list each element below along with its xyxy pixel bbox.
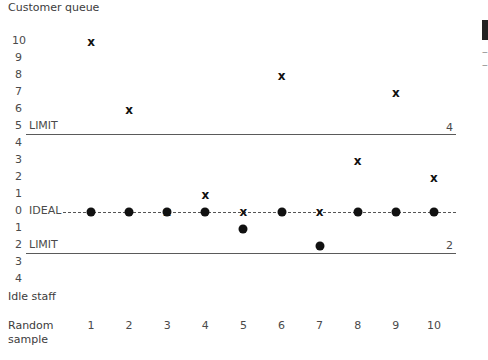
upper-axis-tick: 3 — [15, 154, 22, 166]
queue-marker-x-icon: x — [87, 36, 95, 48]
upper-axis-tick: 5 — [15, 120, 22, 132]
lower-limit-label: LIMIT — [29, 239, 58, 251]
idle-staff-dot — [353, 208, 362, 217]
upper-axis-tick: 1 — [15, 188, 22, 200]
idle-staff-dot — [239, 225, 248, 234]
cropped-edge-element — [482, 20, 488, 40]
x-axis-tick: 5 — [240, 319, 247, 332]
upper-limit-count: 4 — [446, 122, 453, 134]
queue-marker-x-icon: x — [278, 70, 286, 82]
queue-marker-x-icon: x — [201, 189, 209, 201]
upper-axis-tick: 10 — [12, 35, 26, 47]
upper-limit-label: LIMIT — [29, 120, 58, 132]
upper-axis-tick: 0 — [15, 205, 22, 217]
lower-axis-tick: 1 — [15, 222, 22, 234]
lower-limit-count: 2 — [446, 240, 453, 252]
x-axis-tick: 4 — [202, 319, 209, 332]
x-axis-tick: 6 — [278, 319, 285, 332]
upper-axis-title: Customer queue — [8, 1, 99, 14]
lower-axis-tick: 3 — [15, 256, 22, 268]
idle-staff-dot — [315, 242, 324, 251]
upper-axis-tick: 2 — [15, 171, 22, 183]
idle-staff-dot — [391, 208, 400, 217]
lower-limit-line — [26, 253, 456, 254]
idle-staff-dot — [201, 208, 210, 217]
x-axis-tick: 3 — [164, 319, 171, 332]
upper-limit-line — [26, 134, 456, 135]
x-axis-tick: 10 — [427, 319, 441, 332]
x-axis-tick: 8 — [354, 319, 361, 332]
queue-marker-x-icon: x — [392, 87, 400, 99]
idle-staff-dot — [163, 208, 172, 217]
x-axis-tick: 7 — [316, 319, 323, 332]
queue-marker-x-icon: x — [354, 155, 362, 167]
queue-marker-x-icon: x — [316, 206, 324, 218]
cropped-edge-text: ‒ — [482, 60, 488, 70]
upper-axis-tick: 9 — [15, 52, 22, 64]
upper-axis-tick: 7 — [15, 86, 22, 98]
x-axis-tick: 1 — [88, 319, 95, 332]
upper-axis-tick: 6 — [15, 103, 22, 115]
queue-marker-x-icon: x — [240, 206, 248, 218]
idle-staff-dot — [277, 208, 286, 217]
x-axis-title-line1: Random — [8, 319, 54, 332]
queue-marker-x-icon: x — [125, 104, 133, 116]
x-axis-title-line2: sample — [8, 333, 48, 346]
x-axis-tick: 9 — [392, 319, 399, 332]
lower-axis-tick: 2 — [15, 239, 22, 251]
cropped-edge-text: ‒ — [482, 47, 488, 57]
lower-axis-title: Idle staff — [8, 290, 56, 303]
ideal-label: IDEAL — [29, 205, 61, 217]
idle-staff-dot — [429, 208, 438, 217]
idle-staff-dot — [87, 208, 96, 217]
upper-axis-tick: 8 — [15, 69, 22, 81]
upper-axis-tick: 4 — [15, 137, 22, 149]
x-axis-tick: 2 — [126, 319, 133, 332]
idle-staff-dot — [125, 208, 134, 217]
lower-axis-tick: 4 — [15, 273, 22, 285]
queue-marker-x-icon: x — [430, 172, 438, 184]
